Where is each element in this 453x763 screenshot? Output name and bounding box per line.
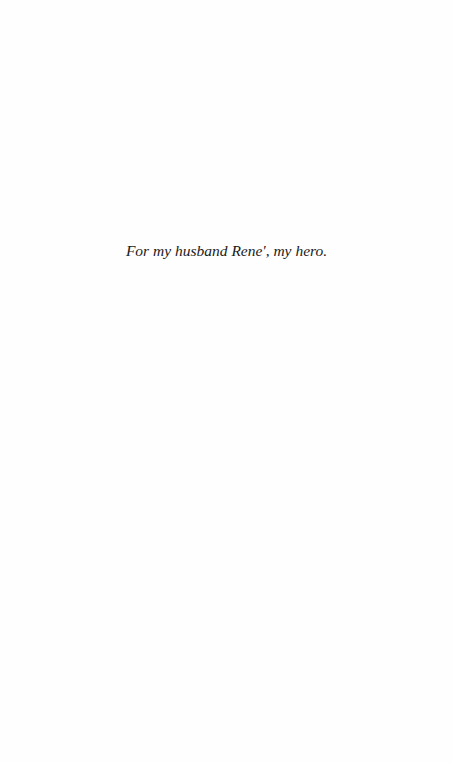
book-page: For my husband Rene', my hero. xyxy=(0,0,453,763)
dedication-text: For my husband Rene', my hero. xyxy=(0,242,453,260)
